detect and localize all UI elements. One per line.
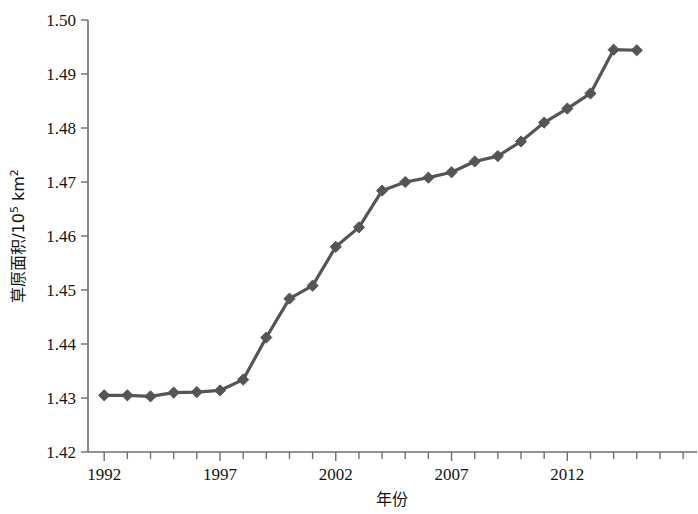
y-axis: 1.421.431.441.451.461.471.481.491.50	[46, 11, 88, 462]
y-tick-label: 1.44	[46, 335, 76, 354]
data-point-marker	[145, 391, 156, 402]
x-axis: 19921997200220072012	[87, 452, 683, 484]
y-tick-label: 1.49	[46, 65, 76, 84]
x-tick-label: 2012	[550, 465, 584, 484]
data-series	[99, 44, 643, 402]
data-point-marker	[99, 390, 110, 401]
data-point-marker	[608, 44, 619, 55]
axis-spines	[88, 20, 697, 452]
data-point-marker	[191, 386, 202, 397]
data-point-marker	[631, 45, 642, 56]
data-point-marker	[400, 176, 411, 187]
series-markers	[99, 44, 643, 402]
data-point-marker	[423, 172, 434, 183]
y-tick-label: 1.43	[46, 389, 76, 408]
y-tick-label: 1.46	[46, 227, 76, 246]
data-point-marker	[469, 156, 480, 167]
y-axis-title-exponent: 5	[8, 206, 21, 213]
x-axis-title: 年份	[376, 490, 408, 509]
data-point-marker	[446, 167, 457, 178]
grassland-area-line-chart: 1.421.431.441.451.461.471.481.491.50 199…	[0, 0, 698, 514]
data-point-marker	[168, 387, 179, 398]
x-tick-label: 2007	[435, 465, 470, 484]
y-tick-label: 1.42	[46, 443, 76, 462]
data-point-marker	[122, 390, 133, 401]
y-axis-title: 草原面积/105 km2	[8, 169, 28, 303]
y-tick-label: 1.47	[46, 173, 76, 192]
x-tick-label: 1997	[203, 465, 238, 484]
y-tick-label: 1.45	[46, 281, 76, 300]
x-tick-label: 2002	[319, 465, 353, 484]
y-axis-title-unit-exponent: 2	[8, 169, 21, 176]
y-axis-title-unit: km	[9, 176, 28, 206]
x-tick-label: 1992	[87, 465, 121, 484]
y-tick-label: 1.50	[46, 11, 76, 30]
y-axis-title-text: 草原面积/10	[9, 213, 28, 303]
data-point-marker	[214, 385, 225, 396]
chart-container: 1.421.431.441.451.461.471.481.491.50 199…	[0, 0, 698, 514]
y-tick-label: 1.48	[46, 119, 76, 138]
series-line-grassland-area	[104, 50, 637, 397]
svg-text:草原面积/105 km2: 草原面积/105 km2	[8, 169, 28, 303]
